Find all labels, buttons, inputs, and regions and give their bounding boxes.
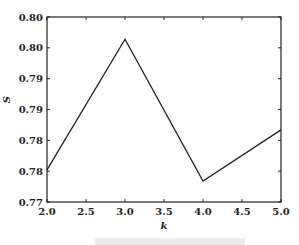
y-axis-ticks: 0.770.780.780.790.790.800.80: [19, 12, 281, 208]
x-tick-label: 5.0: [272, 206, 289, 217]
x-tick-label: 3.5: [155, 206, 172, 217]
data-line: [47, 39, 281, 181]
figure-caption-cropped: [95, 238, 245, 245]
x-axis-label: k: [161, 220, 168, 231]
y-tick-label: 0.78: [19, 166, 43, 177]
y-tick-label: 0.78: [19, 135, 43, 146]
y-tick-label: 0.77: [19, 197, 43, 208]
y-axis-label: S: [1, 96, 12, 103]
x-tick-label: 2.5: [77, 206, 94, 217]
x-tick-label: 4.5: [233, 206, 250, 217]
y-tick-label: 0.79: [19, 73, 43, 84]
y-tick-label: 0.80: [19, 42, 43, 53]
y-tick-label: 0.80: [19, 12, 43, 23]
x-tick-label: 4.0: [194, 206, 211, 217]
y-tick-label: 0.79: [19, 104, 43, 115]
x-tick-label: 2.0: [38, 206, 55, 217]
line-chart: 2.02.53.03.54.04.55.0 0.770.780.780.790.…: [0, 0, 299, 245]
x-tick-label: 3.0: [116, 206, 133, 217]
x-axis-ticks: 2.02.53.03.54.04.55.0: [38, 17, 289, 217]
